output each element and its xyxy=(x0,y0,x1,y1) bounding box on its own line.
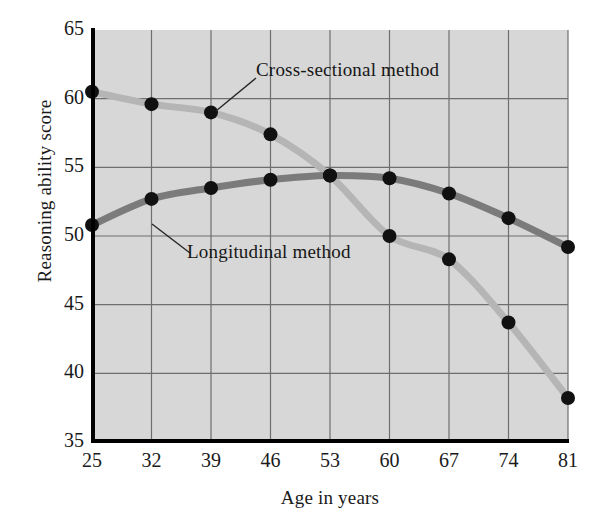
data-point xyxy=(502,211,516,225)
data-point xyxy=(204,181,218,195)
x-tick-label-39: 39 xyxy=(188,449,234,472)
y-tick-label-40: 40 xyxy=(38,360,84,383)
y-tick-label-45: 45 xyxy=(38,292,84,315)
data-point xyxy=(442,252,456,266)
data-point xyxy=(502,316,516,330)
data-point xyxy=(442,186,456,200)
chart-figure: Reasoning ability score Age in years 354… xyxy=(0,0,597,524)
y-tick-label-50: 50 xyxy=(38,223,84,246)
x-tick-label-32: 32 xyxy=(129,449,175,472)
data-point xyxy=(323,169,337,183)
y-tick-label-55: 55 xyxy=(38,154,84,177)
data-point xyxy=(204,105,218,119)
data-point xyxy=(561,391,575,405)
x-axis-title: Age in years xyxy=(92,487,568,509)
data-point xyxy=(561,240,575,254)
x-tick-label-81: 81 xyxy=(545,449,591,472)
data-point xyxy=(145,192,159,206)
data-point xyxy=(383,171,397,185)
y-tick-label-60: 60 xyxy=(38,86,84,109)
annotation-cross-sectional-method: Cross-sectional method xyxy=(256,59,439,81)
data-point xyxy=(383,229,397,243)
data-point xyxy=(264,173,278,187)
x-tick-label-67: 67 xyxy=(426,449,472,472)
x-tick-label-53: 53 xyxy=(307,449,353,472)
x-tick-label-25: 25 xyxy=(69,449,115,472)
y-tick-label-65: 65 xyxy=(38,17,84,40)
data-point xyxy=(145,97,159,111)
data-point xyxy=(264,127,278,141)
x-tick-label-60: 60 xyxy=(367,449,413,472)
annotation-longitudinal-method: Longitudinal method xyxy=(187,241,351,263)
x-tick-label-46: 46 xyxy=(248,449,294,472)
x-tick-label-74: 74 xyxy=(486,449,532,472)
